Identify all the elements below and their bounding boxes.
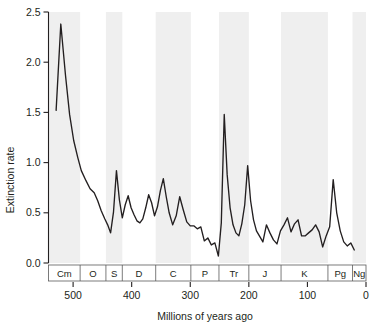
period-label-d: D: [136, 268, 143, 279]
period-label-p: P: [202, 268, 208, 279]
period-label-pg: Pg: [334, 268, 346, 279]
x-tick-label-500: 500: [64, 289, 82, 301]
chart-canvas: 0.00.51.01.52.02.5 5004003002001000 CmOS…: [0, 0, 375, 327]
x-axis-ticks: 5004003002001000: [64, 282, 369, 301]
y-tick-label-1.0: 1.0: [26, 156, 41, 168]
geologic-period-bar: CmOSDCPTrJKPgNg: [49, 265, 367, 281]
period-label-ng: Ng: [353, 268, 365, 279]
x-axis-title: Millions of years ago: [157, 310, 253, 322]
y-tick-label-2.5: 2.5: [26, 6, 41, 18]
period-label-cm: Cm: [57, 268, 72, 279]
period-band-cm: [49, 12, 81, 263]
period-band-ng: [353, 12, 366, 263]
period-band-c: [156, 12, 191, 263]
x-tick-label-300: 300: [181, 289, 199, 301]
x-tick-label-100: 100: [299, 289, 317, 301]
y-tick-label-0.0: 0.0: [26, 257, 41, 269]
y-tick-label-2.0: 2.0: [26, 56, 41, 68]
y-tick-label-1.5: 1.5: [26, 106, 41, 118]
period-label-o: O: [89, 268, 96, 279]
period-label-c: C: [170, 268, 177, 279]
period-shading-bands: [49, 12, 367, 263]
x-tick-label-200: 200: [240, 289, 258, 301]
y-axis-title: Extinction rate: [4, 147, 16, 214]
period-label-s: S: [111, 268, 117, 279]
y-tick-label-0.5: 0.5: [26, 206, 41, 218]
x-tick-label-0: 0: [363, 289, 369, 301]
period-label-k: K: [301, 268, 308, 279]
period-label-j: J: [263, 268, 268, 279]
period-label-tr: Tr: [230, 268, 239, 279]
y-axis-ticks: 0.00.51.01.52.02.5: [26, 6, 49, 269]
period-band-k: [281, 12, 328, 263]
extinction-rate-chart: 0.00.51.01.52.02.5 5004003002001000 CmOS…: [0, 0, 375, 327]
x-tick-label-400: 400: [123, 289, 141, 301]
